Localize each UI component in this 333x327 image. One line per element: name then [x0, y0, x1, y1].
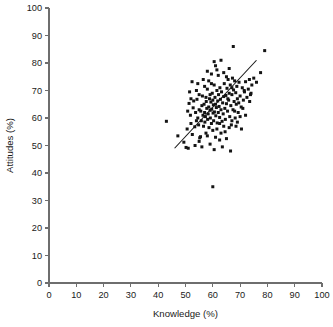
data-point: [189, 122, 192, 125]
x-tick-label-50: 50: [180, 290, 190, 300]
data-point: [228, 115, 231, 118]
data-point: [194, 144, 197, 147]
y-tick-label-20: 20: [32, 223, 42, 233]
data-point: [201, 95, 204, 98]
data-point: [213, 110, 216, 113]
data-point: [228, 67, 231, 70]
data-point: [219, 59, 222, 62]
data-point: [211, 129, 214, 132]
y-tick-label-40: 40: [32, 168, 42, 178]
data-point: [202, 125, 205, 128]
data-point: [215, 106, 218, 109]
y-tick-label-50: 50: [32, 141, 42, 151]
y-tick-label-10: 10: [32, 251, 42, 261]
y-tick-label-60: 60: [32, 113, 42, 123]
data-point: [187, 147, 190, 150]
data-point: [234, 117, 237, 120]
data-point: [229, 150, 232, 153]
data-point: [213, 60, 216, 63]
data-point: [218, 139, 221, 142]
data-point: [215, 89, 218, 92]
x-tick-label-70: 70: [235, 290, 245, 300]
data-point: [238, 81, 241, 84]
y-axis-title: Attitudes (%): [4, 118, 15, 173]
data-point: [206, 134, 209, 137]
data-point: [226, 97, 229, 100]
data-point: [224, 118, 227, 121]
data-point: [188, 90, 191, 93]
data-point: [202, 78, 205, 81]
data-point: [240, 128, 243, 131]
data-point: [233, 110, 236, 113]
data-point: [165, 120, 168, 123]
data-point: [199, 135, 202, 138]
chart-canvas: 0102030405060708090100 01020304050607080…: [0, 0, 333, 327]
data-point: [209, 143, 212, 146]
data-point: [217, 93, 220, 96]
data-point: [195, 89, 198, 92]
data-point: [231, 77, 234, 80]
data-point: [192, 106, 195, 109]
data-point: [227, 78, 230, 81]
data-point: [214, 114, 217, 117]
data-point: [222, 112, 225, 115]
x-tick-label-100: 100: [314, 290, 329, 300]
y-tick-label-30: 30: [32, 196, 42, 206]
data-point: [215, 68, 218, 71]
data-point: [182, 141, 185, 144]
data-point: [250, 92, 253, 95]
data-point: [186, 110, 189, 113]
data-point: [239, 95, 242, 98]
data-point: [243, 89, 246, 92]
data-point: [235, 85, 238, 88]
data-point: [189, 97, 192, 100]
data-point: [203, 85, 206, 88]
data-point: [218, 86, 221, 89]
data-point: [252, 77, 255, 80]
data-point: [259, 71, 262, 74]
data-point: [213, 84, 216, 87]
data-point: [192, 99, 195, 102]
x-axis-title: Knowledge (%): [153, 308, 218, 319]
data-point: [191, 133, 194, 136]
data-point: [233, 100, 236, 103]
data-point: [250, 84, 253, 87]
y-tick-label-90: 90: [32, 31, 42, 41]
data-point: [200, 145, 203, 148]
data-point: [207, 106, 210, 109]
y-axis-ticks: 0102030405060708090100: [27, 3, 49, 288]
y-tick-label-70: 70: [32, 86, 42, 96]
data-point: [203, 111, 206, 114]
data-point: [210, 122, 213, 125]
data-point: [204, 96, 207, 99]
data-point: [236, 121, 239, 124]
y-tick-label-80: 80: [32, 58, 42, 68]
scatter-plot-figure: 0102030405060708090100 01020304050607080…: [0, 0, 333, 327]
data-point: [228, 126, 231, 129]
data-point: [225, 102, 228, 105]
data-point: [214, 64, 217, 67]
x-tick-label-40: 40: [153, 290, 163, 300]
data-point: [228, 92, 231, 95]
data-point: [245, 96, 248, 99]
data-point: [225, 75, 228, 78]
data-point: [194, 111, 197, 114]
data-point: [218, 116, 221, 119]
data-point: [248, 78, 251, 81]
data-point: [204, 132, 207, 135]
data-point: [223, 82, 226, 85]
data-point: [215, 128, 218, 131]
data-point: [208, 97, 211, 100]
data-point: [223, 107, 226, 110]
x-tick-label-60: 60: [208, 290, 218, 300]
data-point: [241, 86, 244, 89]
data-point: [210, 82, 213, 85]
data-point: [232, 45, 235, 48]
data-point: [196, 82, 199, 85]
data-point: [236, 97, 239, 100]
axes-group: [49, 8, 322, 283]
data-point: [241, 107, 244, 110]
data-point: [244, 80, 247, 83]
data-point: [199, 110, 202, 113]
x-tick-label-30: 30: [126, 290, 136, 300]
